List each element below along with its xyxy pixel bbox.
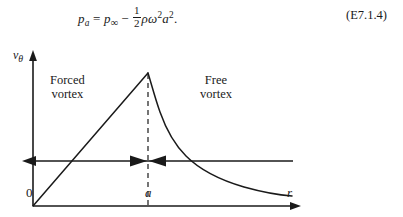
fraction-numerator: 1 [133,5,141,17]
x-axis [33,202,301,210]
region-span-arrows [22,156,293,167]
free-vortex-label-line1: Free [200,73,232,87]
equation-period: . [174,11,177,26]
equation-minus: − [118,11,132,26]
vortex-velocity-figure: vθ Forced vortex Free vortex 0 a r [0,40,403,217]
free-vortex-label: Free vortex [200,73,232,102]
forced-vortex-label: Forced vortex [50,73,85,102]
core-radius-label: a [145,185,152,201]
equation-radius: a [162,11,169,26]
equation-lhs: pa [78,11,90,26]
free-vortex-label-line2: vortex [200,87,232,101]
equation-one-half-fraction: 12 [133,5,141,29]
y-axis [29,50,37,206]
free-region-left-arrowhead [149,156,166,167]
equation-equals: = [93,11,101,26]
equation-number: (E7.1.4) [346,8,387,23]
equation-expression: pa = p∞−12ρω2a2. [78,6,177,30]
figure-canvas [0,40,403,217]
forced-vortex-label-line1: Forced [50,73,85,87]
equation-row: pa = p∞−12ρω2a2. (E7.1.4) [0,0,403,42]
y-axis-label-subscript: θ [18,53,23,64]
origin-label: 0 [26,185,33,201]
forced-region-right-arrowhead [130,156,147,167]
equation-lhs-subscript: a [85,17,90,27]
x-axis-label: r [287,185,292,201]
forced-vortex-label-line2: vortex [50,87,85,101]
equation-rhs-pressure: p∞ [104,11,118,26]
y-axis-label: vθ [13,48,23,64]
fraction-denominator: 2 [133,17,141,30]
forced-region-left-arrowhead [22,156,36,166]
